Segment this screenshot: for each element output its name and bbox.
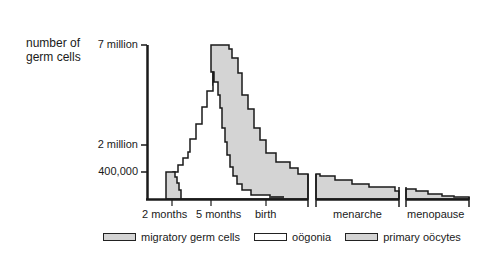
legend-swatch-white [254,233,287,241]
legend-item-migratory: migratory germ cells [103,231,240,243]
legend-item-oocytes: primary oöcytes [345,231,461,243]
legend-swatch-gray [103,233,136,241]
legend-item-oogonia: oögonia [254,231,331,243]
primary-oocytes-area-late [406,189,469,199]
chart-plot [0,0,484,262]
legend-swatch-gray-2 [345,233,378,241]
x-tick-menarche: menarche [333,208,382,221]
legend-label-oogonia: oögonia [292,231,331,243]
x-tick-2-months: 2 months [142,208,187,221]
legend: migratory germ cells oögonia primary oöc… [103,231,475,243]
primary-oocytes-area-adult [316,174,399,199]
x-tick-5-months: 5 months [196,208,241,221]
legend-label-migratory: migratory germ cells [141,231,240,243]
legend-label-oocytes: primary oöcytes [383,231,461,243]
x-tick-birth: birth [255,208,276,221]
x-tick-menopause: menopause [407,208,465,221]
